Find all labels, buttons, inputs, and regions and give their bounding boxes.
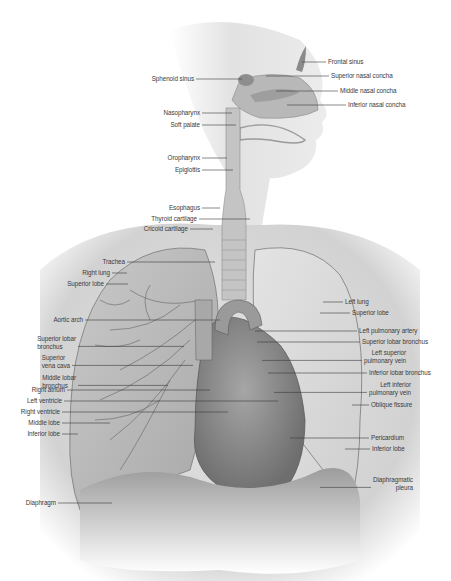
label-cricoid-cartilage: Cricoid cartilage [144, 225, 188, 232]
label-frontal-sinus: Frontal sinus [328, 58, 363, 65]
label-thyroid-cartilage: Thyroid cartilage [151, 215, 197, 222]
label-diaphragmatic-pleura: Diaphragmaticpleura [373, 476, 413, 491]
label-inferior-lobe-right: Inferior lobe [27, 430, 60, 437]
label-soft-palate: Soft palate [170, 121, 200, 128]
label-left-pulmonary-artery: Left pulmonary artery [359, 327, 417, 334]
label-aortic-arch: Aortic arch [53, 316, 83, 323]
sphenoid-sinus-shape [238, 74, 254, 86]
label-inferior-lobar-bronchus: Inferior lobar bronchus [369, 369, 431, 376]
label-left-superior-pulmonary-vein: Left superiorpulmonary vein [364, 349, 406, 364]
label-right-ventricle: Right ventricle [21, 408, 60, 415]
label-inferior-lobe-left: Inferior lobe [372, 445, 405, 452]
label-left-lung: Left lung [345, 298, 369, 305]
label-superior-vena-cava: Superiorvena cava [42, 354, 70, 369]
label-inferior-nasal-concha: Inferior nasal concha [348, 101, 405, 108]
label-oblique-fissure: Oblique fissure [371, 401, 412, 408]
label-superior-lobe-left: Superior lobe [352, 309, 389, 316]
label-trachea: Trachea [102, 258, 125, 265]
label-diaphragm: Diaphragm [26, 499, 56, 506]
label-middle-nasal-concha: Middle nasal concha [340, 87, 396, 94]
label-superior-lobar-bronchus-left: Superior lobar bronchus [362, 338, 428, 345]
label-right-atrium: Right atrium [32, 386, 65, 393]
label-left-inferior-pulmonary-vein: Left inferiorpulmonary vein [369, 381, 411, 396]
label-esophagus: Esophagus [169, 204, 200, 211]
label-right-lung: Right lung [82, 269, 110, 276]
label-pericardium: Pericardium [371, 434, 404, 441]
label-oropharynx: Oropharynx [168, 154, 200, 161]
label-middle-lobe: Middle lobe [28, 419, 60, 426]
label-superior-lobe-right: Superior lobe [67, 280, 104, 287]
label-nasopharynx: Nasopharynx [163, 109, 200, 116]
label-epiglottis: Epiglottis [175, 166, 200, 173]
label-superior-lobar-bronchus-right: Superior lobarbronchus [37, 335, 76, 350]
superior-vena-cava-shape [195, 300, 212, 360]
label-left-ventricle: Left ventricle [27, 397, 62, 404]
label-sphenoid-sinus: Sphenoid sinus [152, 75, 194, 82]
label-superior-nasal-concha: Superior nasal concha [331, 72, 393, 79]
